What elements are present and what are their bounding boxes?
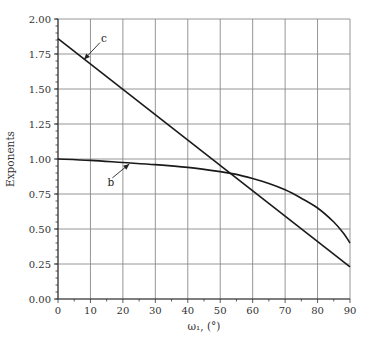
- x-tick-label: 20: [117, 305, 130, 316]
- y-axis-label: Exponents: [4, 131, 16, 187]
- x-tick-label: 30: [149, 305, 162, 316]
- y-tick-label: 0.25: [29, 259, 51, 270]
- x-axis-label: ω₁, (°): [188, 320, 221, 332]
- series-c-line: [58, 39, 350, 267]
- grid: [58, 19, 350, 299]
- x-tick-label: 0: [55, 305, 61, 316]
- y-tick-label: 1.50: [29, 84, 51, 95]
- y-tick-label: 2.00: [29, 14, 51, 25]
- x-tick-label: 40: [181, 305, 194, 316]
- x-tick-label: 70: [279, 305, 292, 316]
- x-tick-label: 80: [311, 305, 324, 316]
- x-tick-label: 50: [214, 305, 227, 316]
- y-tick-label: 0.00: [29, 294, 51, 305]
- series-b-line: [58, 159, 350, 243]
- y-tick-label: 1.75: [29, 49, 51, 60]
- y-tick-label: 1.00: [29, 154, 51, 165]
- y-tick-label: 0.75: [29, 189, 51, 200]
- y-tick-label: 0.50: [29, 224, 51, 235]
- series: [58, 39, 350, 267]
- x-tick-label: 90: [344, 305, 357, 316]
- y-tick-label: 1.25: [29, 119, 51, 130]
- ticks: 01020304050607080900.000.250.500.751.001…: [29, 14, 357, 317]
- x-tick-label: 60: [246, 305, 259, 316]
- annotation-c-label: c: [101, 32, 107, 44]
- x-tick-label: 10: [84, 305, 97, 316]
- annotation-b-label: b: [107, 176, 114, 188]
- chart: 01020304050607080900.000.250.500.751.001…: [0, 0, 375, 347]
